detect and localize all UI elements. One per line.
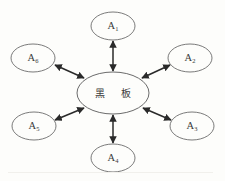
node-a3: A3 — [170, 112, 214, 140]
scan-artifact-line — [8, 172, 213, 173]
edge-center-a2 — [142, 65, 170, 78]
node-a4: A4 — [91, 144, 135, 172]
node-a1-subscript: 1 — [115, 25, 118, 32]
node-a6: A6 — [11, 44, 55, 72]
node-a2: A2 — [168, 44, 212, 72]
node-a1: A1 — [91, 12, 135, 40]
edge-center-a5 — [55, 108, 84, 120]
center-node-label: 黑 板 — [95, 87, 136, 99]
node-a2-subscript: 2 — [192, 57, 195, 64]
center-node: 黑 板 — [77, 72, 149, 114]
node-a3-subscript: 3 — [194, 125, 197, 132]
node-a5-subscript: 5 — [36, 125, 39, 132]
edge-center-a6 — [55, 65, 84, 78]
node-a5: A5 — [12, 112, 56, 140]
edge-center-a3 — [143, 108, 171, 120]
radial-hub-diagram: 黑 板 A1 A2 A3 A4 — [0, 0, 225, 181]
figure-container: 黑 板 A1 A2 A3 A4 — [0, 0, 225, 181]
